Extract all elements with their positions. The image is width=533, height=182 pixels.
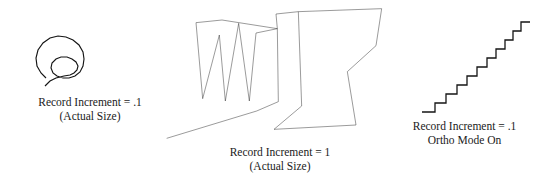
spiral-caption-line2: (Actual Size) xyxy=(0,110,180,124)
staircase-caption-line2: Ortho Mode On xyxy=(396,134,533,148)
staircase-stroke-path xyxy=(422,22,530,112)
spiral-caption-line1: Record Increment = .1 xyxy=(0,96,180,110)
staircase-figure xyxy=(400,12,533,120)
staircase-ink-strokes xyxy=(422,22,530,112)
polygon-drawing-canvas xyxy=(160,0,400,145)
staircase-drawing-canvas xyxy=(400,12,533,120)
spiral-drawing-canvas xyxy=(0,18,180,98)
staircase-caption-line1: Record Increment = .1 xyxy=(396,120,533,134)
polygon-caption-line2: (Actual Size) xyxy=(185,160,375,174)
spiral-stroke-path xyxy=(36,36,84,86)
polygon-caption-line1: Record Increment = 1 xyxy=(185,146,375,160)
polygon-caption: Record Increment = 1 (Actual Size) xyxy=(185,146,375,173)
polygon-stroke-path xyxy=(167,9,382,139)
spiral-ink-strokes xyxy=(36,36,84,86)
spiral-figure xyxy=(0,18,180,98)
spiral-caption: Record Increment = .1 (Actual Size) xyxy=(0,96,180,123)
polygon-figure xyxy=(160,0,400,145)
polygon-ink-strokes xyxy=(167,9,382,139)
staircase-caption: Record Increment = .1 Ortho Mode On xyxy=(396,120,533,147)
figure-page: Record Increment = .1 (Actual Size) Reco… xyxy=(0,0,533,182)
